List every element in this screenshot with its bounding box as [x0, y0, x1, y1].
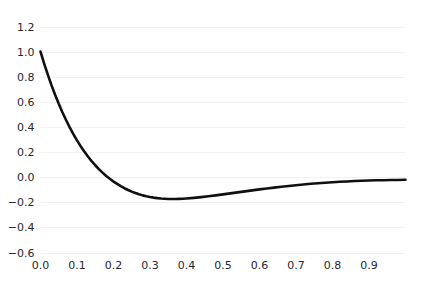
y-tick-label: −0.2	[8, 197, 35, 208]
y-tick-label: 0.2	[17, 147, 35, 158]
y-tick-label: −0.4	[8, 222, 35, 233]
y-tick-label: 0.8	[17, 71, 35, 82]
x-tick-label: 0.1	[68, 260, 86, 271]
y-tick-label: 0.4	[17, 121, 35, 132]
plot-canvas	[0, 0, 423, 295]
data-line	[41, 52, 406, 199]
series-group	[41, 52, 406, 199]
x-tick-label: 0.7	[287, 260, 305, 271]
x-tick-label: 0.5	[214, 260, 232, 271]
x-tick-label: 0.3	[141, 260, 159, 271]
y-tick-label: 1.2	[17, 21, 35, 32]
x-tick-label: 0.6	[251, 260, 269, 271]
y-tick-label: 0.6	[17, 96, 35, 107]
x-tick-label: 0.8	[324, 260, 342, 271]
y-tick-label: −0.6	[8, 247, 35, 258]
y-tick-label: 0.0	[17, 172, 35, 183]
gridlines-group	[41, 28, 406, 254]
x-tick-label: 0.0	[32, 260, 50, 271]
chart-figure: −0.6−0.4−0.20.00.20.40.60.81.01.2 0.00.1…	[0, 0, 423, 295]
x-tick-label: 0.9	[360, 260, 378, 271]
x-tick-label: 0.2	[105, 260, 123, 271]
y-tick-label: 1.0	[17, 46, 35, 57]
x-tick-label: 0.4	[178, 260, 196, 271]
